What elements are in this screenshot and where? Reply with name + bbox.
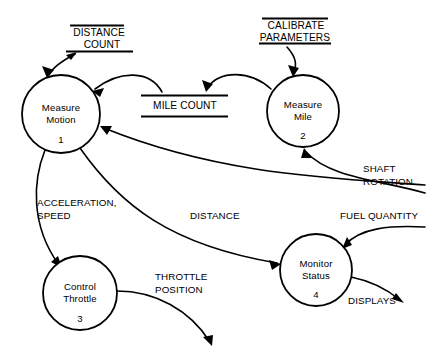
diagram-canvas: DISTANCE COUNT MILE COUNT CALIBRATE PARA… <box>0 0 434 353</box>
flow-label-displays: DISPLAYS <box>348 295 396 306</box>
measure-mile-label-line1: Measure <box>284 99 322 110</box>
acceleration-speed-label-line1: ACCELERATION, <box>37 197 117 208</box>
distance-count-label-line2: COUNT <box>84 39 121 50</box>
control-throttle-label-line2: Throttle <box>63 293 97 304</box>
throttle-position-path <box>117 291 210 342</box>
measure-motion-label-line1: Measure <box>42 102 80 113</box>
flow-distance-count-link <box>42 52 77 78</box>
flow-fuel-quantity <box>342 226 425 249</box>
data-store-distance-count: DISTANCE COUNT <box>66 26 133 52</box>
monitor-status-label-line1: Monitor <box>299 258 333 269</box>
measure-motion-label-line2: Motion <box>46 114 76 125</box>
flow-label-shaft-rotation: SHAFT ROTATION <box>363 163 413 187</box>
measure-mile-number: 2 <box>300 130 305 141</box>
flow-label-distance: DISTANCE <box>190 210 240 221</box>
shaft-rotation-label-line1: SHAFT <box>363 163 396 174</box>
shaft-rotation-to-mile-arrowhead <box>301 148 312 158</box>
throttle-position-arrowhead <box>203 335 213 346</box>
mile-count-to-motion-path <box>95 75 162 92</box>
process-measure-motion[interactable]: Measure Motion 1 <box>22 75 100 153</box>
process-measure-mile[interactable]: Measure Mile 2 <box>267 75 339 147</box>
throttle-position-label-line1: THROTTLE <box>155 271 208 282</box>
control-throttle-label-line1: Control <box>64 281 96 292</box>
flow-label-acceleration-speed: ACCELERATION, SPEED <box>37 197 117 221</box>
measure-motion-number: 1 <box>58 134 63 145</box>
monitor-status-label-line2: Status <box>302 270 330 281</box>
flow-mile-count-to-measure-motion <box>92 75 162 97</box>
flow-label-throttle-position: THROTTLE POSITION <box>155 271 208 295</box>
flow-label-fuel-quantity: FUEL QUANTITY <box>340 210 419 221</box>
data-flow-diagram: DISTANCE COUNT MILE COUNT CALIBRATE PARA… <box>0 0 434 353</box>
fuel-quantity-label: FUEL QUANTITY <box>340 210 419 221</box>
mile-count-label: MILE COUNT <box>153 100 217 111</box>
shaft-rotation-label-line2: ROTATION <box>363 176 413 187</box>
process-monitor-status[interactable]: Monitor Status 4 <box>280 234 352 306</box>
fuel-quantity-path <box>345 226 425 245</box>
flow-distance <box>80 148 281 270</box>
throttle-position-label-line2: POSITION <box>155 284 203 295</box>
process-control-throttle[interactable]: Control Throttle 3 <box>43 256 117 330</box>
measure-mile-label-line2: Mile <box>294 111 312 122</box>
monitor-status-number: 4 <box>313 289 319 300</box>
calibrate-parameters-label-line1: CALIBRATE <box>268 20 325 31</box>
distance-label: DISTANCE <box>190 210 240 221</box>
flow-measure-mile-to-mile-count <box>202 75 271 92</box>
data-store-calibrate-parameters: CALIBRATE PARAMETERS <box>259 19 331 44</box>
acceleration-speed-label-line2: SPEED <box>37 210 71 221</box>
flow-throttle-position <box>117 291 213 346</box>
data-store-mile-count: MILE COUNT <box>141 96 228 117</box>
calibrate-parameters-label-line2: PARAMETERS <box>260 32 331 43</box>
control-throttle-number: 3 <box>77 313 82 324</box>
mile-to-mile-count-path <box>207 75 271 89</box>
distance-count-label-line1: DISTANCE <box>73 27 125 38</box>
flow-calibrate-parameters-to-measure-mile <box>287 47 299 77</box>
mile-to-mile-count-arrowhead <box>202 80 213 92</box>
displays-label: DISPLAYS <box>348 295 396 306</box>
